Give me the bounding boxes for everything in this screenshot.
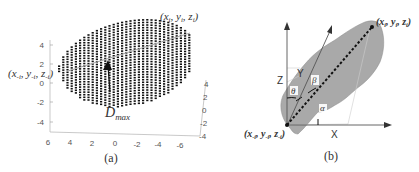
z-axis-label: Z <box>277 75 283 86</box>
z-tick-label: 0 <box>40 79 45 88</box>
min-point-label-b: (x-i, y-i, z-i) <box>244 128 285 140</box>
x-tick-label: 6 <box>46 138 51 147</box>
y-axis-label: Y <box>297 68 304 79</box>
caption-a: (a) <box>104 151 117 165</box>
x-tick-label: -6 <box>176 141 184 150</box>
y-tick-label: -4 <box>199 132 207 141</box>
y-tick-label: 0 <box>202 106 207 115</box>
z-tick-label: -2 <box>37 98 45 107</box>
y-tick-label: -2 <box>200 119 208 128</box>
z-tick-label: -4 <box>37 118 45 127</box>
z-tick-label: 4 <box>40 41 45 50</box>
figure: 4 2 0 -2 -4 6 4 2 0 -2 -4 -6 4 2 0 -2 -4 <box>0 0 419 172</box>
x-tick-label: 2 <box>90 139 95 148</box>
max-point-label: (xi, yi, zi) <box>160 10 199 24</box>
x-axis-label: X <box>331 129 338 140</box>
alpha-label: α <box>320 103 325 113</box>
x-ticks: 6 4 2 0 -2 -4 -6 <box>46 138 184 150</box>
x-tick-label: 0 <box>113 139 118 148</box>
panel-b-orientation-diagram: θ β α Z Y X (xi, yi, zi) (x-i, y-i, z-i)… <box>244 16 411 163</box>
x-tick-label: -4 <box>154 140 162 149</box>
caption-b: (b) <box>324 149 338 163</box>
dmax-label: Dmax <box>104 105 130 122</box>
y-tick-label: 4 <box>204 80 209 89</box>
x-tick-label: -2 <box>133 140 141 149</box>
x-tick-label: 4 <box>68 138 73 147</box>
beta-label: β <box>311 75 317 85</box>
max-point-marker <box>370 25 374 29</box>
z-ticks: 4 2 0 -2 -4 <box>37 41 53 127</box>
point-cloud <box>58 19 190 108</box>
y-tick-label: 2 <box>203 93 208 102</box>
panel-a-3d-scatter: 4 2 0 -2 -4 6 4 2 0 -2 -4 -6 4 2 0 -2 -4 <box>8 10 209 165</box>
min-point-marker <box>285 123 289 127</box>
x-axis-line <box>50 132 200 136</box>
max-point-label-b: (xi, yi, zi) <box>376 16 411 28</box>
min-point-label: (x-i, y-i, z-i) <box>8 67 54 81</box>
theta-label: θ <box>291 86 296 96</box>
y-ticks: 4 2 0 -2 -4 <box>199 80 209 141</box>
theta-arc <box>287 98 296 99</box>
